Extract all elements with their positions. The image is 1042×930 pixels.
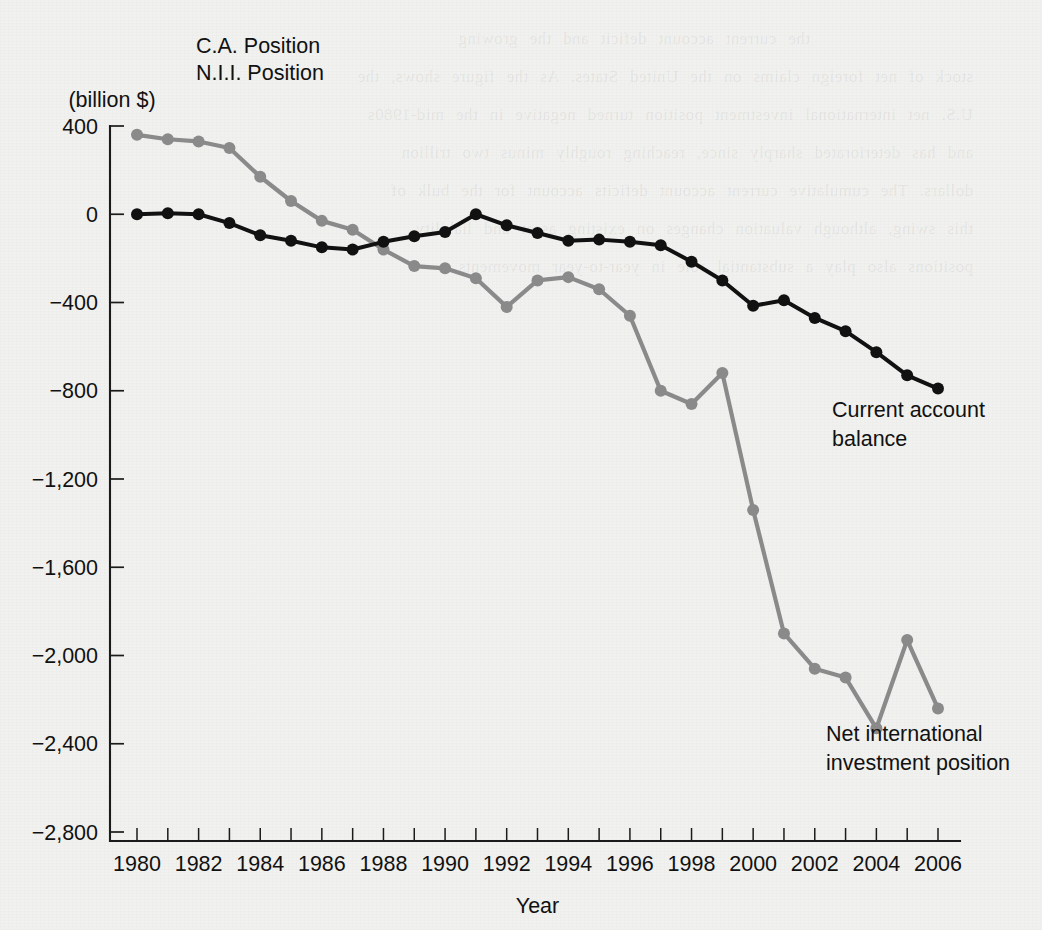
data-point-current-account bbox=[193, 208, 205, 220]
data-point-niip bbox=[840, 672, 852, 684]
data-point-niip bbox=[316, 215, 328, 227]
data-point-current-account bbox=[593, 234, 605, 246]
data-point-niip bbox=[562, 271, 574, 283]
data-point-niip bbox=[532, 274, 544, 286]
data-point-current-account bbox=[870, 346, 882, 358]
annotation-niip: investment position bbox=[826, 751, 1010, 775]
y-axis-tick-label: −1,200 bbox=[32, 468, 98, 492]
data-point-niip bbox=[932, 702, 944, 714]
data-point-niip bbox=[593, 283, 605, 295]
x-axis-tick-label: 1988 bbox=[360, 852, 408, 876]
data-point-current-account bbox=[686, 256, 698, 268]
data-point-current-account bbox=[840, 325, 852, 337]
x-axis-title: Year bbox=[516, 894, 559, 918]
y-axis-tick-label: −400 bbox=[50, 291, 98, 315]
data-point-niip bbox=[162, 133, 174, 145]
data-point-niip bbox=[408, 260, 420, 272]
data-point-niip bbox=[716, 367, 728, 379]
x-axis-tick-label: 2000 bbox=[729, 852, 777, 876]
data-point-current-account bbox=[809, 312, 821, 324]
data-point-current-account bbox=[377, 236, 389, 248]
annotation-niip: Net international bbox=[826, 722, 983, 746]
series-line-niip bbox=[137, 135, 938, 728]
data-point-current-account bbox=[470, 208, 482, 220]
data-point-current-account bbox=[747, 300, 759, 312]
data-point-niip bbox=[624, 310, 636, 322]
x-axis-tick-label: 1994 bbox=[544, 852, 592, 876]
data-point-current-account bbox=[316, 241, 328, 253]
data-point-niip bbox=[686, 398, 698, 410]
data-point-current-account bbox=[223, 217, 235, 229]
data-point-current-account bbox=[562, 235, 574, 247]
data-point-niip bbox=[223, 142, 235, 154]
y-axis-tick-label: −1,600 bbox=[32, 556, 98, 580]
data-point-niip bbox=[470, 272, 482, 284]
annotation-current-account-balance: Current account bbox=[832, 398, 985, 422]
data-point-niip bbox=[901, 634, 913, 646]
data-point-current-account bbox=[254, 229, 266, 241]
data-point-niip bbox=[439, 262, 451, 274]
data-point-niip bbox=[254, 171, 266, 183]
annotation-current-account-balance: balance bbox=[832, 427, 907, 451]
data-point-current-account bbox=[131, 208, 143, 220]
line-chart: 4000−400−800−1,200−1,600−2,000−2,400−2,8… bbox=[0, 0, 1042, 930]
y-axis-tick-label: 0 bbox=[86, 203, 98, 227]
y-axis-title-line: N.I.I. Position bbox=[196, 61, 324, 85]
x-axis-tick-label: 1982 bbox=[175, 852, 223, 876]
data-point-niip bbox=[778, 627, 790, 639]
figure-current-account-and-niip: 4000−400−800−1,200−1,600−2,000−2,400−2,8… bbox=[0, 0, 1042, 930]
data-point-current-account bbox=[501, 219, 513, 231]
data-point-niip bbox=[655, 385, 667, 397]
data-point-current-account bbox=[532, 227, 544, 239]
data-point-niip bbox=[501, 301, 513, 313]
y-axis-tick-label: −2,400 bbox=[32, 732, 98, 756]
data-point-niip bbox=[285, 195, 297, 207]
data-point-current-account bbox=[408, 230, 420, 242]
data-point-niip bbox=[347, 224, 359, 236]
x-axis-tick-label: 2004 bbox=[852, 852, 900, 876]
data-point-current-account bbox=[778, 294, 790, 306]
data-point-current-account bbox=[347, 244, 359, 256]
y-axis-tick-label: −2,800 bbox=[32, 821, 98, 845]
data-point-current-account bbox=[716, 274, 728, 286]
x-axis-tick-label: 2006 bbox=[914, 852, 962, 876]
y-axis-title-line: (billion $) bbox=[68, 88, 155, 112]
data-point-current-account bbox=[162, 207, 174, 219]
x-axis-tick-label: 1990 bbox=[421, 852, 469, 876]
data-point-current-account bbox=[439, 226, 451, 238]
data-point-current-account bbox=[932, 383, 944, 395]
data-point-current-account bbox=[655, 239, 667, 251]
x-axis-tick-label: 1984 bbox=[236, 852, 284, 876]
y-axis-title-line: C.A. Position bbox=[196, 34, 320, 58]
x-axis-tick-label: 1986 bbox=[298, 852, 346, 876]
y-axis-tick-label: 400 bbox=[62, 115, 98, 139]
data-point-niip bbox=[193, 135, 205, 147]
data-point-current-account bbox=[624, 236, 636, 248]
x-axis-tick-label: 1980 bbox=[113, 852, 161, 876]
y-axis-tick-label: −2,000 bbox=[32, 644, 98, 668]
data-point-current-account bbox=[285, 235, 297, 247]
data-point-current-account bbox=[901, 369, 913, 381]
x-axis-tick-label: 1998 bbox=[668, 852, 716, 876]
x-axis-tick-label: 2002 bbox=[791, 852, 839, 876]
x-axis-tick-label: 1996 bbox=[606, 852, 654, 876]
data-point-niip bbox=[131, 129, 143, 141]
data-point-niip bbox=[747, 504, 759, 516]
y-axis-tick-label: −800 bbox=[50, 379, 98, 403]
x-axis-tick-label: 1992 bbox=[483, 852, 531, 876]
data-point-niip bbox=[809, 663, 821, 675]
